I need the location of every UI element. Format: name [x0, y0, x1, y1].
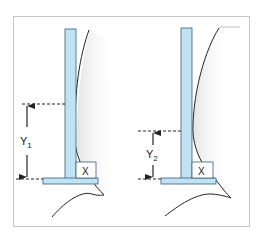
vertical-bar-left	[65, 29, 76, 179]
diagram-canvas: X Y1 X Y2	[0, 0, 262, 236]
foot-plate-left	[43, 178, 98, 184]
corner-label-right: X	[198, 166, 205, 177]
corner-label-left: X	[82, 166, 89, 177]
foot-plate-right	[161, 178, 216, 184]
vertical-bar-right	[181, 28, 192, 179]
